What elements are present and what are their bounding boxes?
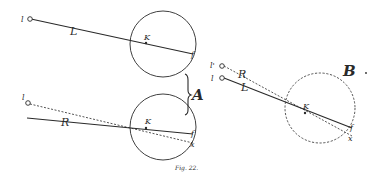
- diagram-lower-left: l R K f x: [22, 93, 196, 160]
- nodal-point-dot-lower: [145, 127, 147, 129]
- label-A: A: [190, 86, 204, 104]
- label-l-B: l: [211, 74, 214, 83]
- point-l-prime-marker: [220, 64, 225, 69]
- nodal-point-dot-B: [304, 112, 306, 114]
- label-R-B: R: [237, 68, 246, 81]
- label-K-upper: K: [143, 33, 151, 42]
- label-l-upper: l: [21, 15, 24, 24]
- label-x-lower: x: [190, 140, 195, 149]
- nodal-point-dot-upper: [145, 42, 147, 44]
- figure-caption: Fig. 22.: [174, 164, 198, 172]
- label-l-lower: l: [22, 93, 25, 102]
- label-K-B: K: [302, 102, 310, 111]
- label-K-lower: K: [144, 117, 152, 126]
- point-l-marker-lower: [26, 101, 31, 106]
- eye-circle-upper: [130, 11, 196, 77]
- label-x-B: x: [348, 134, 353, 143]
- label-L-B: L: [240, 81, 248, 94]
- point-l-marker-B: [220, 76, 225, 81]
- figure-22: l L K f A l R K f x: [0, 0, 382, 183]
- label-B: B: [342, 62, 356, 80]
- label-l-prime: l': [210, 61, 215, 70]
- point-l-marker-upper: [28, 17, 33, 22]
- line-L-upper: [31, 19, 193, 54]
- dashed-ray-lower: [30, 104, 193, 143]
- diagram-upper-left: l L K f: [21, 11, 196, 77]
- line-R-lower: [27, 118, 193, 134]
- label-R-lower: R: [60, 116, 69, 129]
- diagram-B: l' l R L K f x B: [210, 61, 367, 143]
- label-L-upper: L: [69, 25, 77, 38]
- eye-circle-dashed: [285, 73, 355, 143]
- label-f-B: f: [349, 123, 355, 132]
- dot-after-B: [365, 72, 367, 74]
- eye-circle-lower: [130, 94, 196, 160]
- bracket-A: A: [185, 74, 204, 115]
